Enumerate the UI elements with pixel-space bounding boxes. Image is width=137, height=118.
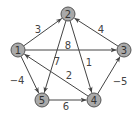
node-label: 4	[91, 95, 97, 106]
edge-weight-label: 6	[63, 101, 69, 112]
edge-1-2	[24, 18, 62, 46]
node-label: 2	[65, 9, 71, 20]
graph-node-1: 1	[11, 43, 25, 57]
graph-node-2: 2	[61, 7, 75, 21]
node-label: 1	[15, 45, 21, 56]
edge-weight-label: 8	[65, 40, 71, 51]
edge-weight-label: 2	[66, 70, 72, 81]
edge-labels-layer: 384712−4−56	[10, 24, 128, 112]
edge-weight-label: 7	[54, 56, 60, 67]
graph-node-3: 3	[117, 43, 131, 57]
edge-weight-label: 3	[35, 24, 41, 35]
node-label: 3	[121, 45, 127, 56]
node-label: 5	[39, 95, 45, 106]
edge-weight-label: −4	[10, 75, 25, 86]
edge-3-2	[74, 18, 118, 46]
edge-weight-label: −5	[113, 76, 128, 87]
edge-weight-label: 4	[98, 24, 104, 35]
graph-node-4: 4	[87, 93, 101, 107]
graph-node-5: 5	[35, 93, 49, 107]
edge-weight-label: 1	[86, 57, 92, 68]
directed-weighted-graph: 384712−4−56 12345	[0, 0, 137, 118]
